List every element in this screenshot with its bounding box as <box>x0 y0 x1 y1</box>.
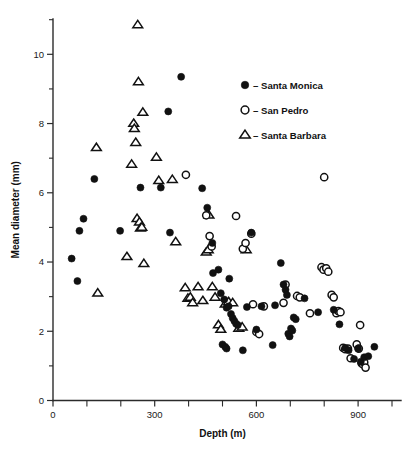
data-point-filled-circle <box>258 303 265 310</box>
data-point-filled-circle <box>178 73 185 80</box>
legend-item-label: Santa Monica <box>261 80 324 91</box>
data-point-open-circle <box>306 310 313 317</box>
data-point-open-triangle <box>180 283 190 290</box>
data-point-open-triangle <box>167 175 177 182</box>
tick-labels-group: 03006009000246810 <box>33 49 366 420</box>
data-point-filled-circle <box>199 185 206 192</box>
data-point-filled-circle <box>166 229 173 236</box>
data-point-filled-circle <box>289 327 296 334</box>
data-point-open-circle <box>203 212 210 219</box>
y-tick-label: 0 <box>39 395 44 406</box>
data-point-open-circle <box>182 171 189 178</box>
data-point-open-triangle <box>127 160 137 167</box>
data-point-open-triangle <box>154 176 164 183</box>
data-point-filled-circle <box>269 342 276 349</box>
series-santa-barbara <box>91 20 251 332</box>
legend-item-label: San Pedro <box>261 105 309 116</box>
data-point-open-triangle <box>171 237 181 244</box>
data-point-open-circle <box>232 212 239 219</box>
data-point-filled-circle <box>223 345 230 352</box>
legend-group: –Santa Monica–San Pedro–Santa Barbara <box>240 80 327 141</box>
data-point-filled-circle <box>225 303 232 310</box>
data-point-filled-circle <box>351 355 358 362</box>
legend-item: –San Pedro <box>241 105 308 116</box>
data-point-open-triangle <box>207 282 217 289</box>
data-points-group <box>68 20 378 371</box>
data-point-filled-circle <box>137 184 144 191</box>
legend-marker-open-triangle <box>240 130 251 138</box>
x-tick-label: 0 <box>50 409 55 420</box>
y-axis-title: Mean diameter (mm) <box>10 161 21 258</box>
legend-item: –Santa Barbara <box>240 130 327 141</box>
data-point-filled-circle <box>315 309 322 316</box>
data-point-filled-circle <box>217 290 224 297</box>
x-tick-label: 600 <box>248 409 264 420</box>
x-axis-title: Depth (m) <box>199 428 246 439</box>
data-point-open-triangle <box>91 143 101 150</box>
legend-marker-filled-circle <box>241 81 249 89</box>
data-point-filled-circle <box>253 326 260 333</box>
legend-dash: – <box>253 105 259 116</box>
y-tick-label: 4 <box>39 256 44 267</box>
data-point-open-triangle <box>131 138 141 145</box>
data-point-open-circle <box>242 239 249 246</box>
data-point-open-triangle <box>139 259 149 266</box>
data-point-open-triangle <box>151 153 161 160</box>
data-point-open-triangle <box>138 108 148 115</box>
data-point-open-circle <box>357 321 364 328</box>
data-point-open-circle <box>206 232 213 239</box>
data-point-filled-circle <box>248 229 255 236</box>
data-point-filled-circle <box>204 204 211 211</box>
data-point-open-circle <box>321 174 328 181</box>
axes-group <box>53 19 401 401</box>
data-point-filled-circle <box>365 353 372 360</box>
data-point-open-circle <box>330 294 337 301</box>
x-tick-label: 900 <box>350 409 366 420</box>
data-point-open-triangle <box>134 77 144 84</box>
data-point-filled-circle <box>76 227 83 234</box>
data-point-filled-circle <box>165 108 172 115</box>
data-point-filled-circle <box>243 304 250 311</box>
data-point-filled-circle <box>221 296 228 303</box>
legend-marker-open-circle <box>241 106 249 114</box>
data-point-filled-circle <box>74 278 81 285</box>
y-tick-label: 6 <box>39 187 44 198</box>
data-point-filled-circle <box>355 345 362 352</box>
data-point-open-triangle <box>198 296 208 303</box>
data-point-open-circle <box>337 309 344 316</box>
data-point-filled-circle <box>91 175 98 182</box>
data-point-filled-circle <box>277 260 284 267</box>
data-point-filled-circle <box>80 215 87 222</box>
legend-dash: – <box>253 130 259 141</box>
scatter-plot-figure: 03006009000246810 –Santa Monica–San Pedr… <box>0 0 413 451</box>
data-point-filled-circle <box>157 184 164 191</box>
data-point-filled-circle <box>283 291 290 298</box>
series-santa-monica <box>68 73 378 365</box>
data-point-open-circle <box>362 364 369 371</box>
data-point-filled-circle <box>330 306 337 313</box>
data-point-open-triangle <box>193 282 203 289</box>
data-point-filled-circle <box>226 275 233 282</box>
data-point-open-circle <box>280 299 287 306</box>
y-tick-label: 8 <box>39 118 44 129</box>
y-tick-label: 2 <box>39 326 44 337</box>
data-point-filled-circle <box>239 347 246 354</box>
data-point-open-triangle <box>122 252 132 259</box>
data-point-filled-circle <box>336 321 343 328</box>
x-tick-label: 300 <box>147 409 163 420</box>
data-point-filled-circle <box>117 227 124 234</box>
data-point-filled-circle <box>371 343 378 350</box>
legend-item-label: Santa Barbara <box>261 130 327 141</box>
data-point-filled-circle <box>215 266 222 273</box>
y-tick-label: 10 <box>33 49 44 60</box>
data-point-filled-circle <box>272 302 279 309</box>
data-point-filled-circle <box>301 295 308 302</box>
data-point-filled-circle <box>292 316 299 323</box>
data-point-open-triangle <box>93 289 103 296</box>
data-point-open-circle <box>325 268 332 275</box>
data-point-open-triangle <box>133 20 143 27</box>
legend-item: –Santa Monica <box>241 80 323 91</box>
plot-canvas: 03006009000246810 –Santa Monica–San Pedr… <box>0 0 413 451</box>
data-point-filled-circle <box>68 255 75 262</box>
data-point-filled-circle <box>209 239 216 246</box>
